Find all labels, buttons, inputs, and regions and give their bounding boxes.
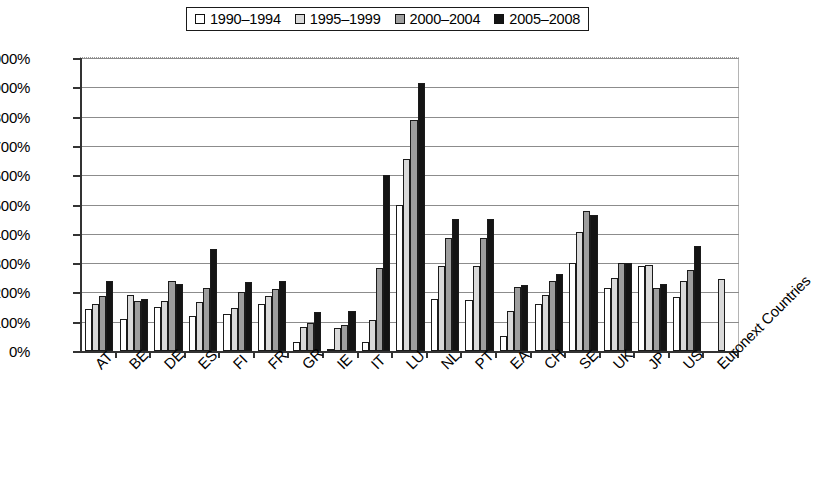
bar[interactable] [487,219,494,351]
bar[interactable] [334,328,341,351]
bar[interactable] [168,281,175,351]
bar[interactable] [645,265,652,351]
bar[interactable] [465,300,472,351]
bar[interactable] [583,211,590,351]
bar[interactable] [403,159,410,351]
bar[interactable] [154,307,161,351]
bar[interactable] [438,266,445,351]
bar[interactable] [85,309,92,351]
bar[interactable] [694,246,701,351]
legend-item[interactable]: 1990–1994 [195,12,281,27]
bar[interactable] [653,288,660,351]
bar-group [289,58,324,351]
bar[interactable] [327,349,334,351]
bar[interactable] [500,336,507,351]
bar[interactable] [376,268,383,352]
bar-group [670,58,705,351]
bar[interactable] [210,249,217,351]
bar[interactable] [196,302,203,351]
bar[interactable] [680,281,687,351]
bar[interactable] [718,279,725,351]
y-tick-mark [73,146,80,148]
bar[interactable] [673,297,680,351]
bar[interactable] [120,319,127,351]
bar[interactable] [480,238,487,351]
legend-item-label: 2005–2008 [509,12,580,27]
bar[interactable] [576,232,583,351]
bar[interactable] [141,299,148,351]
bar[interactable] [590,215,597,351]
bar-group [428,58,463,351]
bar[interactable] [176,284,183,351]
bar[interactable] [92,304,99,351]
x-tick-label: FI [230,352,250,372]
bar[interactable] [99,296,106,351]
bar[interactable] [279,281,286,351]
bar-group [635,58,670,351]
bar[interactable] [542,295,549,351]
bar-group [324,58,359,351]
y-tick-mark [73,58,80,60]
y-tick-mark [73,175,80,177]
y-tick-label: 600% [0,168,30,183]
bar[interactable] [452,219,459,351]
bar[interactable] [569,263,576,351]
bar[interactable] [161,301,168,351]
legend-item-label: 2000–2004 [410,12,481,27]
bar-group [566,58,601,351]
bar[interactable] [383,175,390,351]
bar[interactable] [348,311,355,351]
bar[interactable] [134,301,141,351]
bar[interactable] [556,274,563,351]
y-tick-mark [73,87,80,89]
bar[interactable] [106,281,113,351]
bar[interactable] [473,266,480,351]
bar[interactable] [604,288,611,351]
bar[interactable] [396,205,403,352]
bar[interactable] [258,304,265,351]
bar[interactable] [272,289,279,351]
bar[interactable] [341,325,348,351]
bar[interactable] [369,320,376,351]
bar[interactable] [223,314,230,352]
bar[interactable] [638,266,645,351]
bar[interactable] [127,295,134,351]
bar[interactable] [300,327,307,351]
bar[interactable] [445,238,452,351]
bar[interactable] [418,83,425,351]
chart-legend: 1990–19941995–19992000–20042005–2008 [186,7,589,31]
bar-group [82,58,117,351]
bar[interactable] [189,316,196,351]
bar[interactable] [507,311,514,351]
bar[interactable] [431,299,438,351]
legend-swatch-icon [195,14,205,24]
bar[interactable] [238,292,245,351]
bar[interactable] [265,296,272,351]
bar[interactable] [245,282,252,351]
bar[interactable] [535,304,542,351]
bar[interactable] [203,288,210,351]
legend-swatch-icon [395,14,405,24]
legend-item[interactable]: 2000–2004 [395,12,481,27]
bar[interactable] [521,285,528,351]
bar[interactable] [618,263,625,351]
bar[interactable] [660,284,667,351]
bar[interactable] [687,270,694,351]
bar[interactable] [293,342,300,351]
legend-item[interactable]: 2005–2008 [494,12,580,27]
y-tick-label: 100% [0,315,30,330]
legend-item[interactable]: 1995–1999 [295,12,381,27]
bar[interactable] [362,342,369,351]
x-tick-mark [391,351,393,358]
bar[interactable] [611,278,618,351]
bar[interactable] [231,308,238,351]
bars-layer [82,58,739,351]
y-tick-label: 900% [0,80,30,95]
y-tick-mark [73,117,80,119]
bar[interactable] [625,263,632,351]
plot-area [80,58,739,353]
y-tick-label: 1000% [0,51,30,66]
bar[interactable] [549,281,556,351]
bar[interactable] [410,120,417,351]
bar[interactable] [514,287,521,351]
